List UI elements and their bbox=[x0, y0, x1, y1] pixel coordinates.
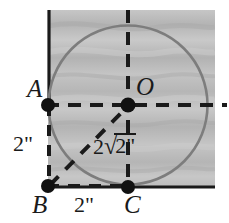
point-a-dot bbox=[41, 98, 55, 112]
diagonal-coefficient: 2 bbox=[93, 134, 104, 159]
label-measure-diagonal: 2√2" bbox=[93, 134, 136, 158]
label-point-a: A bbox=[27, 76, 42, 101]
figure-canvas bbox=[0, 0, 229, 223]
point-o-dot bbox=[121, 98, 136, 113]
label-measure-left: 2" bbox=[13, 133, 33, 155]
label-point-b: B bbox=[32, 192, 47, 217]
geometry-figure: A O B C 2" 2" 2√2" bbox=[0, 0, 229, 223]
label-measure-bottom: 2" bbox=[74, 194, 94, 216]
radicand-value: 2" bbox=[114, 133, 136, 157]
label-point-c: C bbox=[124, 192, 141, 217]
radical-group: √2" bbox=[104, 134, 136, 158]
label-point-o: O bbox=[136, 74, 154, 99]
